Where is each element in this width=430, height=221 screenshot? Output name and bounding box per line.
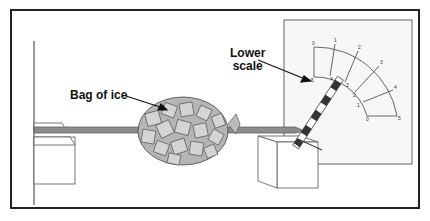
lever-diagram: 0 1 2 3 4 5 5 4 3 2 1 0 bbox=[0, 0, 430, 221]
svg-text:2: 2 bbox=[353, 92, 356, 98]
svg-text:0: 0 bbox=[366, 116, 369, 122]
svg-text:3: 3 bbox=[380, 59, 383, 65]
svg-text:4: 4 bbox=[394, 84, 397, 90]
svg-text:1: 1 bbox=[334, 37, 337, 43]
lower-scale-label: Lower scale bbox=[230, 47, 265, 73]
svg-text:3: 3 bbox=[346, 82, 349, 88]
svg-text:0: 0 bbox=[312, 40, 315, 46]
svg-text:2: 2 bbox=[358, 44, 361, 50]
bag-of-ice-label: Bag of ice bbox=[70, 89, 127, 102]
svg-text:1: 1 bbox=[357, 102, 360, 108]
svg-text:5: 5 bbox=[311, 77, 314, 83]
svg-text:4: 4 bbox=[330, 76, 333, 82]
svg-text:5: 5 bbox=[398, 115, 401, 121]
lower-scale-label-line2: scale bbox=[230, 60, 265, 73]
bag-of-ice bbox=[138, 97, 240, 165]
label-arrows bbox=[126, 60, 311, 110]
